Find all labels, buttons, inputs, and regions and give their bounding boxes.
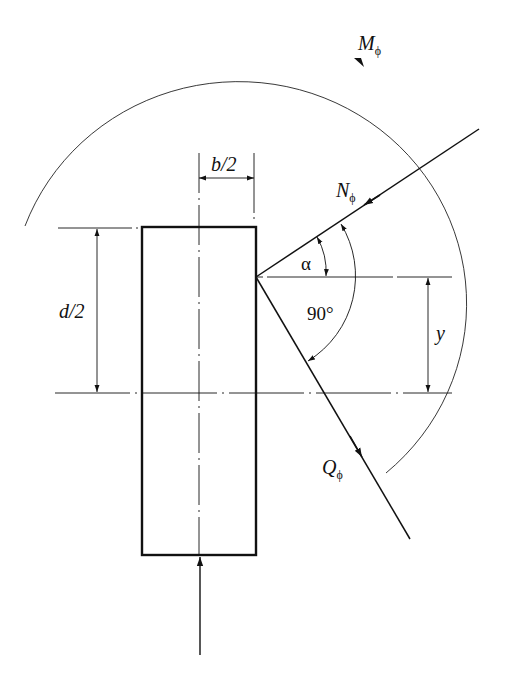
alpha-angle-arc [317, 237, 326, 276]
ninety-degree-label: 90° [307, 303, 334, 324]
shear-force-label: Qϕ [322, 456, 343, 482]
right-angle-arc [308, 224, 356, 361]
diagram-canvas: Mϕ Nϕ Qϕ b/2 d/2 α 90° y [0, 0, 505, 684]
shear-force-arrow-icon [350, 436, 362, 457]
normal-force-arrow-icon [364, 195, 380, 205]
b-half-label: b/2 [211, 153, 237, 175]
moment-arrow-icon [354, 58, 364, 67]
normal-force-label: Nϕ [335, 179, 356, 205]
d-half-label: d/2 [59, 300, 85, 322]
alpha-label: α [301, 253, 311, 274]
y-label: y [434, 322, 445, 345]
force-diagram: Mϕ Nϕ Qϕ b/2 d/2 α 90° y [0, 0, 505, 684]
moment-label: Mϕ [357, 32, 381, 58]
